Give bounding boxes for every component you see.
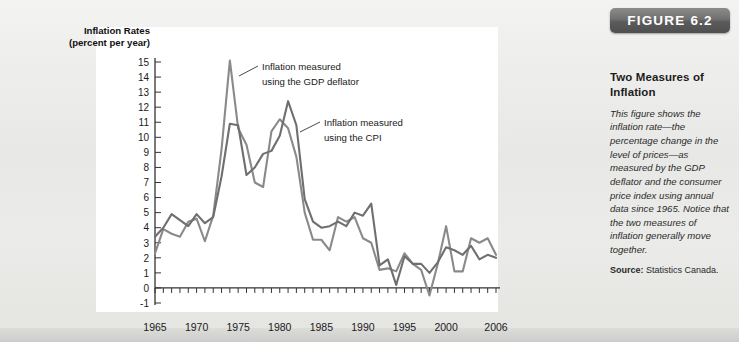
cpi-annotation-line2: using the CPI: [324, 132, 382, 143]
y-tick-label: 2: [143, 253, 149, 264]
y-tick-label: 13: [138, 87, 150, 98]
y-tick-label: 6: [143, 192, 149, 203]
x-tick-label: 1970: [185, 321, 209, 333]
axis-lines: [155, 58, 500, 305]
x-tick-label: 1975: [226, 321, 250, 333]
figure-side-column: Two Measures of Inflation This figure sh…: [610, 70, 732, 275]
cpi-annotation: Inflation measured using the CPI: [300, 117, 403, 143]
series-cpi: [155, 101, 496, 285]
y-tick-label: 3: [143, 238, 149, 249]
x-tick-label: 1985: [310, 321, 334, 333]
x-tick-label: 1995: [393, 321, 417, 333]
y-tick-label: 9: [143, 147, 149, 158]
x-axis-ticks: 196519701975198019851990199520002006: [143, 288, 508, 333]
y-tick-label: 1: [143, 268, 149, 279]
x-tick-label: 1990: [351, 321, 375, 333]
x-tick-label: 1980: [268, 321, 292, 333]
figure-title: Two Measures of Inflation: [610, 70, 732, 100]
figure-source-label: Source:: [610, 265, 644, 275]
figure-source-text: Statistics Canada.: [646, 265, 719, 275]
gdp-deflator-leader-line: [239, 66, 258, 76]
series-gdp-deflator: [155, 60, 496, 295]
y-tick-label: 5: [143, 207, 149, 218]
y-tick-label: 15: [138, 57, 150, 68]
y-tick-label: 12: [138, 102, 150, 113]
y-axis-title-line1: Inflation Rates: [84, 25, 150, 36]
gdp-deflator-annotation-line1: Inflation measured: [262, 61, 341, 72]
y-tick-label: -1: [140, 298, 149, 309]
y-axis-ticks: 1514131211109876543210-1: [138, 57, 161, 309]
figure-source: Source: Statistics Canada.: [610, 265, 732, 275]
cpi-leader-line: [300, 122, 320, 132]
x-tick-label: 2006: [484, 321, 508, 333]
y-tick-label: 4: [143, 222, 149, 233]
x-tick-label: 2000: [434, 321, 458, 333]
y-tick-label: 8: [143, 162, 149, 173]
y-tick-label: 7: [143, 177, 149, 188]
cpi-annotation-line1: Inflation measured: [324, 117, 403, 128]
y-tick-label: 11: [139, 117, 150, 128]
gdp-deflator-annotation: Inflation measured using the GDP deflato…: [239, 61, 360, 87]
y-tick-label: 10: [138, 132, 150, 143]
x-tick-label: 1965: [143, 321, 167, 333]
gdp-deflator-annotation-line2: using the GDP deflator: [262, 76, 360, 87]
data-series-lines: [155, 60, 496, 295]
figure-description: This figure shows the inflation rate—the…: [610, 107, 732, 257]
y-axis-title-line2: (percent per year): [69, 37, 150, 48]
y-tick-label: 14: [138, 72, 150, 83]
y-tick-label: 0: [143, 283, 149, 294]
